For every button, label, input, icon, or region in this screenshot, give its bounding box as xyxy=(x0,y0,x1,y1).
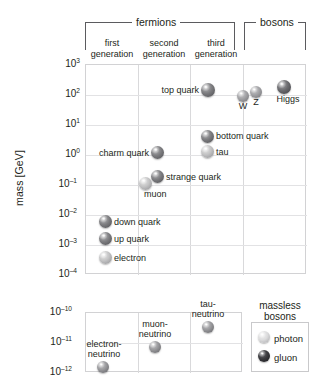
label-strange-quark: strange quark xyxy=(166,173,221,183)
label-muon-neutrino: muon-neutrino xyxy=(132,320,178,339)
label-up-quark: up quark xyxy=(114,235,149,245)
gridline-row-5 xyxy=(86,215,307,216)
y-tick-1e0: 100 xyxy=(40,149,80,159)
third-generation-line1: third xyxy=(207,38,225,48)
label-down-quark: down quark xyxy=(114,218,161,228)
point-up-quark[interactable] xyxy=(99,232,112,245)
particle-mass-chart: mass [GeV] fermions bosons first generat… xyxy=(0,0,326,387)
point-electron[interactable] xyxy=(99,251,112,264)
point-strange-quark[interactable] xyxy=(151,170,164,183)
fermions-label: fermions xyxy=(132,16,180,28)
label-tau-neutrino: tau-neutrino xyxy=(185,300,231,319)
point-electron-neutrino[interactable] xyxy=(97,361,109,373)
third-generation-line2: generation xyxy=(195,49,238,59)
y-tick-1e-4: 10–4 xyxy=(37,269,77,279)
point-tau[interactable] xyxy=(201,145,214,158)
y-tick-1e-10: 10–10 xyxy=(32,307,72,317)
legend-label-gluon: gluon xyxy=(274,352,297,363)
label-electron: electron xyxy=(114,254,146,264)
point-down-quark[interactable] xyxy=(99,215,112,228)
legend-swatch-gluon[interactable] xyxy=(258,350,270,362)
legend-swatch-photon[interactable] xyxy=(258,331,270,343)
gridline-row-6 xyxy=(86,245,307,246)
second-generation-line1: second xyxy=(149,38,178,48)
y-tick-1e-3: 10–3 xyxy=(37,239,77,249)
bosons-label: bosons xyxy=(256,16,298,28)
point-bottom-quark[interactable] xyxy=(201,130,214,143)
y-tick-1e-12: 10–12 xyxy=(32,367,72,377)
y-tick-1e2: 102 xyxy=(40,89,80,99)
y-tick-1e-2: 10–2 xyxy=(37,209,77,219)
y-tick-1e3: 103 xyxy=(40,59,80,69)
label-electron-neutrino: electron-neutrino xyxy=(80,340,128,359)
legend-title: massless bosons xyxy=(240,300,320,322)
y-axis-title: mass [GeV] xyxy=(13,123,25,233)
legend-label-photon: photon xyxy=(274,333,303,344)
gridline-row-4 xyxy=(86,185,307,186)
third-generation-label: third generation xyxy=(190,38,242,59)
label-tau: tau xyxy=(216,148,229,158)
y-tick-1e1: 101 xyxy=(40,119,80,129)
second-generation-label: second generation xyxy=(138,38,190,59)
label-muon: muon xyxy=(144,190,167,200)
first-generation-label: first generation xyxy=(86,38,138,59)
point-top-quark[interactable] xyxy=(201,83,215,97)
point-tau-neutrino[interactable] xyxy=(202,321,214,333)
gridline-col-2 xyxy=(190,65,191,275)
legend-title-line2: bosons xyxy=(264,311,296,322)
point-charm-quark[interactable] xyxy=(151,146,164,159)
first-generation-line1: first xyxy=(105,38,120,48)
label-top-quark: top quark xyxy=(141,86,199,96)
second-generation-line2: generation xyxy=(143,49,186,59)
y-tick-1e-1: 10–1 xyxy=(37,179,77,189)
y-tick-1e-11: 10–11 xyxy=(32,337,72,347)
label-z-boson: Z xyxy=(247,98,265,108)
label-bottom-quark: bottom quark xyxy=(216,132,269,142)
first-generation-line2: generation xyxy=(91,49,134,59)
massless-bosons-legend xyxy=(251,322,309,372)
label-charm-quark: charm quark xyxy=(92,149,149,159)
point-higgs[interactable] xyxy=(277,80,291,94)
legend-title-line1: massless xyxy=(259,300,301,311)
label-higgs: Higgs xyxy=(272,95,304,105)
point-muon-neutrino[interactable] xyxy=(149,341,161,353)
gridline-row-2 xyxy=(86,125,307,126)
